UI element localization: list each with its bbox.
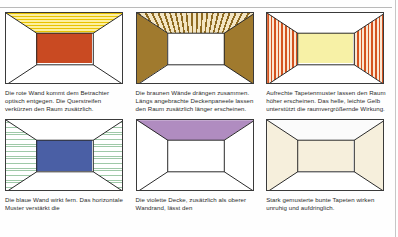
room-red-back-wall (5, 12, 123, 84)
back-wall-surface (297, 140, 353, 171)
panel-violet-ceiling: Die violette Decke, zusätzlich als obere… (131, 119, 262, 212)
panel-caption: Stark gemusterte bunte Tapeten wirken un… (266, 196, 387, 212)
room-blue-back-wall (5, 119, 123, 191)
panel-grid: Die rote Wand kommt dem Betrachter optis… (0, 12, 392, 212)
room-vertical-striped-walls (266, 12, 384, 84)
panel-caption: Aufrechte Tapetenmuster lassen den Raum … (266, 89, 387, 113)
panel-row-top: Die rote Wand kommt dem Betrachter optis… (0, 12, 392, 113)
back-wall-surface (167, 33, 223, 64)
room-violet-ceiling (136, 119, 254, 191)
panel-caption: Die braunen Wände drängen zusammen. Läng… (136, 89, 257, 113)
panel-caption: Die rote Wand kommt dem Betrachter optis… (5, 89, 126, 113)
right-margin-rule (395, 0, 396, 237)
back-wall-surface (167, 140, 223, 171)
panel-caption: Die blaue Wand wirkt fern. Das horizonta… (5, 196, 126, 212)
panel-vertical-pattern: Aufrechte Tapetenmuster lassen den Raum … (261, 12, 392, 113)
panel-busy-pattern: Stark gemusterte bunte Tapeten wirken un… (261, 119, 392, 212)
panel-brown-walls: Die braunen Wände drängen zusammen. Läng… (131, 12, 262, 113)
page-root: Die rote Wand kommt dem Betrachter optis… (0, 0, 398, 237)
back-wall-surface (297, 33, 353, 64)
panel-row-bottom: Die blaue Wand wirkt fern. Das horizonta… (0, 119, 392, 212)
room-speckled-patterned-walls (266, 119, 384, 191)
back-wall-surface (36, 140, 92, 171)
panel-blue-wall: Die blaue Wand wirkt fern. Das horizonta… (0, 119, 131, 212)
room-brown-side-walls (136, 12, 254, 84)
panel-red-wall: Die rote Wand kommt dem Betrachter optis… (0, 12, 131, 113)
panel-caption: Die violette Decke, zusätzlich als obere… (136, 196, 257, 212)
top-divider-rule (0, 7, 392, 8)
back-wall-surface (36, 33, 92, 64)
